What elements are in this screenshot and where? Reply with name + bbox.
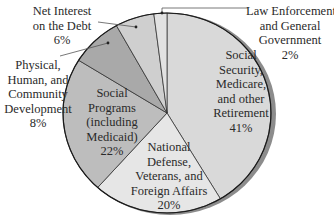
label-line: and other [200,92,282,107]
label-line: Foreign Affairs [126,184,212,199]
label-percent: 2% [246,48,334,63]
label-line: Development [2,102,74,117]
leader-law-enforcement [162,8,248,13]
label-line: Physical, [2,58,74,73]
label-line: and General [246,19,334,34]
leader-dot-net-interest [135,26,138,29]
label-net-interest: Net Interest on the Debt 6% [26,4,98,48]
label-percent: 8% [2,116,74,131]
leader-dot-physical [107,42,110,45]
label-percent: 20% [126,198,212,213]
label-line: Community [2,87,74,102]
label-line: Retirement [200,106,282,121]
label-line: Government [246,33,334,48]
label-line: Veterans, and [126,169,212,184]
label-social-programs: Social Programs (including Medicaid) 22% [81,86,143,159]
label-line: Programs [81,101,143,116]
label-line: on the Debt [26,19,98,34]
label-law-enforcement: Law Enforcement and General Government 2… [246,4,334,62]
label-line: Net Interest [26,4,98,19]
label-percent: 6% [26,33,98,48]
label-percent: 22% [81,144,143,159]
label-line: (including [81,115,143,130]
label-line: Human, and [2,73,74,88]
label-physical-human: Physical, Human, and Community Developme… [2,58,74,131]
label-line: Security, [200,63,282,78]
leader-dot-law [161,12,164,15]
label-line: Medicare, [200,77,282,92]
label-percent: 41% [200,121,282,136]
label-line: Medicaid) [81,130,143,145]
label-line: Social [81,86,143,101]
label-line: Law Enforcement [246,4,334,19]
